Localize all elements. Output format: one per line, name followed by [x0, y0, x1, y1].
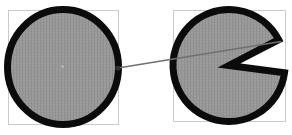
drawing-canvas: [0, 0, 292, 135]
connection-point-marker: [116, 66, 121, 71]
shapes-layer: [0, 0, 292, 135]
center-marker-left-circle: [61, 65, 63, 67]
